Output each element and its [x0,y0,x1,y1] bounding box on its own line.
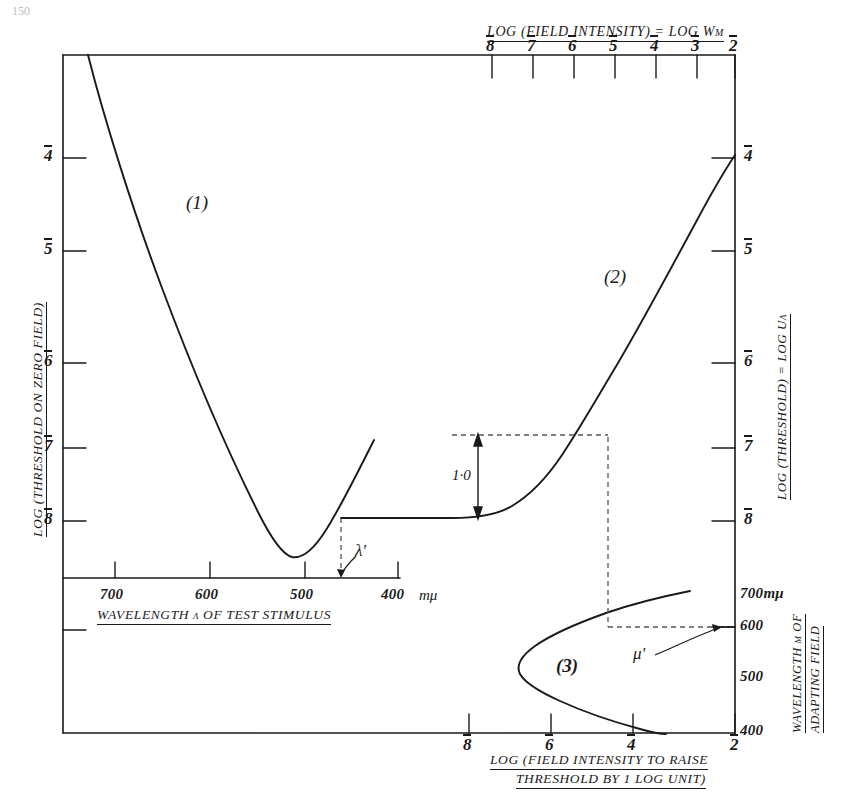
inner-wavelength-axis-title: WAVELENGTH λ OF TEST STIMULUS [97,607,331,625]
right-tick-8: 8 [744,509,753,529]
left-tick-4: 4 [44,146,53,166]
top-tick-4: 4 [650,36,659,56]
left-axis-ticks [63,158,86,630]
bottom-axis-title-line1: LOG (FIELD INTENSITY TO RAISE [490,752,708,770]
top-tick-3: 3 [691,36,700,56]
bottom-axis-title-line2: THRESHOLD BY 1 LOG UNIT) [516,771,706,789]
inner-axis-unit: mμ [419,587,437,604]
top-tick-8: 8 [486,36,495,56]
right-wavelength-tick-700: 700mμ [740,585,784,602]
right-axis-ticks [712,158,735,627]
one-log-unit-measure [474,434,482,519]
inner-tick-400: 400 [381,586,404,603]
curve-2-label: (2) [604,266,626,288]
right-wavelength-tick-400: 400 [740,722,763,739]
inner-wavelength-ticks [115,562,398,578]
curve-1-label: (1) [186,192,208,214]
lambda-prime-label: λ' [355,541,366,561]
mu-prime-label: μ' [633,644,645,664]
left-tick-5: 5 [44,239,53,259]
right-tick-7: 7 [744,436,753,456]
curve-3-label: (3) [556,655,578,677]
one-log-unit-label: 1·0 [452,467,471,484]
inner-tick-700: 700 [100,586,123,603]
right-tick-6: 6 [744,351,753,371]
top-tick-6: 6 [568,36,577,56]
right-axis-title: LOG (THRESHOLD) = LOG Uλ [774,314,790,500]
right-tick-5: 5 [744,239,753,259]
top-tick-7: 7 [527,36,536,56]
right-wavelength-tick-600: 600 [740,617,763,634]
inner-tick-500: 500 [290,586,313,603]
left-axis-title: LOG (THRESHOLD ON ZERO FIELD) [30,302,46,537]
right-wavelength-axis-title-line2: ADAPTING FIELD [808,626,823,733]
curve-2-path [341,155,735,518]
curve-3-path [519,591,690,734]
top-axis-ticks [492,55,735,78]
lambda-prime-arrow [337,556,356,578]
top-tick-5: 5 [609,36,618,56]
right-tick-4: 4 [744,146,753,166]
top-tick-2: 2 [729,36,738,56]
right-wavelength-tick-500: 500 [740,668,763,685]
curve-1-path [88,55,374,557]
figure-canvas [0,0,842,797]
right-wavelength-axis-title-line1: WAVELENGTH μ OF [790,614,805,733]
bottom-tick-8: 8 [463,735,472,755]
top-axis-title: LOG (FIELD INTENSITY) = LOG Wμ [487,24,724,42]
bottom-tick-2: 2 [730,735,739,755]
inner-tick-600: 600 [195,586,218,603]
mu-prime-arrow [655,624,722,655]
